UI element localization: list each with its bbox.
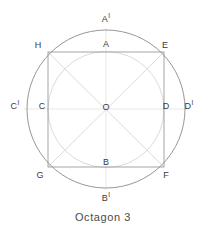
- label-c: C: [39, 102, 46, 111]
- label-d-text: D: [163, 101, 170, 111]
- label-c-prime-text: C: [10, 101, 17, 111]
- label-b-text: B: [103, 157, 109, 167]
- label-f-text: F: [163, 170, 169, 180]
- label-o: O: [102, 103, 109, 112]
- label-d-prime: DI: [184, 102, 193, 111]
- label-b-prime: BI: [102, 194, 111, 203]
- octagon-figure: AI A H E CI C O D DI G F B BI Octagon 3: [0, 0, 206, 232]
- label-a-prime-text: A: [102, 14, 108, 24]
- figure-caption: Octagon 3: [0, 212, 206, 223]
- label-f: F: [163, 171, 169, 180]
- label-o-text: O: [102, 102, 109, 112]
- label-d: D: [163, 102, 170, 111]
- label-b: B: [103, 158, 109, 167]
- label-a: A: [103, 40, 109, 49]
- label-h: H: [35, 41, 42, 50]
- label-c-prime: CI: [10, 102, 19, 111]
- label-a-prime: AI: [102, 15, 111, 24]
- label-c-prime-sup: I: [18, 99, 20, 106]
- label-a-prime-sup: I: [108, 12, 110, 19]
- label-g: G: [36, 171, 43, 180]
- label-e-text: E: [162, 40, 168, 50]
- label-c-text: C: [39, 101, 46, 111]
- label-b-prime-text: B: [102, 193, 108, 203]
- label-b-prime-sup: I: [108, 191, 110, 198]
- label-e: E: [162, 41, 168, 50]
- label-a-text: A: [103, 39, 109, 49]
- label-d-prime-text: D: [184, 101, 191, 111]
- label-h-text: H: [35, 40, 42, 50]
- label-d-prime-sup: I: [192, 99, 194, 106]
- label-g-text: G: [36, 170, 43, 180]
